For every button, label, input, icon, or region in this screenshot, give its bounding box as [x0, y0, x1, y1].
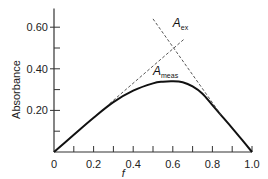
chart: 00.20.40.60.81.00.200.400.60 fAbsorbance…	[0, 0, 268, 179]
x-tick-label: 0.4	[126, 158, 141, 170]
x-tick-label: 0.2	[86, 158, 101, 170]
x-tick-label: 0	[51, 158, 57, 170]
labels-group: fAbsorbanceAexAmeas	[10, 16, 189, 179]
series-group	[54, 19, 252, 152]
y-tick-label: 0.60	[27, 21, 48, 33]
series-line-extrapolation-right	[153, 19, 222, 117]
x-tick-label: 0.8	[205, 158, 220, 170]
annotation-a-meas: Ameas	[152, 64, 179, 79]
series-line-a-meas	[54, 81, 252, 152]
y-tick-label: 0.40	[27, 63, 48, 75]
x-tick-label: 1.0	[244, 158, 259, 170]
x-tick-label: 0.6	[165, 158, 180, 170]
annotation-a-ex: Aex	[172, 16, 189, 31]
y-tick-label: 0.20	[27, 104, 48, 116]
y-axis-title: Absorbance	[10, 60, 22, 119]
